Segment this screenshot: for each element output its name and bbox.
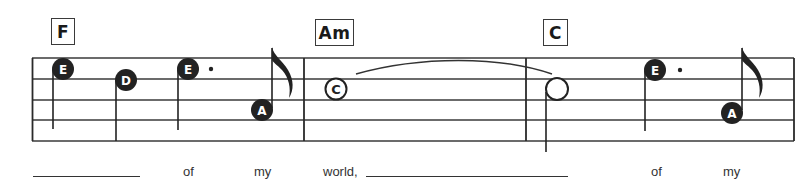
lyric-word-my-2: my [723,164,740,179]
note-c-whole: C [326,79,347,100]
svg-text:D: D [121,74,131,88]
augmentation-dot [209,67,213,71]
eighth-flag-icon [742,47,763,98]
lyric-word-of: of [183,164,194,179]
eighth-flag-icon [272,47,293,98]
svg-text:C: C [331,82,341,97]
augmentation-dot [678,68,682,72]
note-e-quarter: E [52,58,74,129]
lyric-blank-2 [366,176,568,177]
svg-text:A: A [257,104,267,118]
note-d-quarter: D [115,69,137,141]
music-staff: E D E A C E A [0,0,809,190]
svg-text:A: A [727,107,737,121]
tie-curve [356,61,552,75]
lyric-word-world: world, [323,164,358,179]
chord-symbol-c: C [543,19,568,46]
lyric-word-my: my [254,164,271,179]
note-label: E [59,63,67,77]
lyric-word-of-2: of [651,164,662,179]
svg-text:E: E [184,63,192,77]
chord-symbol-f: F [51,18,75,45]
lyric-blank-1 [33,176,140,177]
chord-symbol-am: Am [315,19,354,46]
svg-text:E: E [651,64,659,78]
